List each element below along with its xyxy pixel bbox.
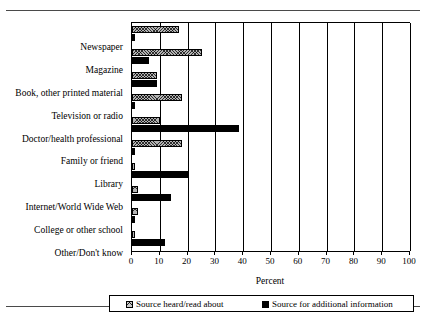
- bar-heard-read-about: [132, 186, 138, 193]
- category-label: Magazine: [86, 63, 123, 77]
- category-label: Other/Don't know: [55, 246, 123, 260]
- legend-item-heard-read-about: Source heard/read about: [126, 298, 223, 310]
- plot-area: [131, 22, 410, 252]
- bar-additional-information: [132, 148, 135, 155]
- category-label: Internet/World Wide Web: [26, 200, 123, 214]
- bar-group: [132, 205, 410, 228]
- x-axis-tick-label: 70: [314, 256, 338, 267]
- top-divider-rule: [6, 10, 420, 11]
- bar-additional-information: [132, 80, 157, 87]
- bar-heard-read-about: [132, 140, 182, 147]
- category-label: Family or friend: [61, 154, 123, 168]
- bar-additional-information: [132, 102, 135, 109]
- bar-heard-read-about: [132, 72, 157, 79]
- bar-group: [132, 91, 410, 114]
- legend-swatch-hatched-icon: [126, 301, 133, 308]
- category-label: Television or radio: [51, 109, 123, 123]
- bar-additional-information: [132, 239, 165, 246]
- bar-heard-read-about: [132, 49, 202, 56]
- x-axis-tick: [270, 251, 271, 255]
- bar-group: [132, 114, 410, 137]
- x-axis-tick-label: 50: [258, 256, 282, 267]
- gridline: [410, 23, 411, 251]
- bar-group: [132, 46, 410, 69]
- bar-chart-figure: NewspaperMagazineBook, other printed mat…: [0, 14, 426, 302]
- bar-group: [132, 23, 410, 46]
- bar-heard-read-about: [132, 208, 138, 215]
- bar-heard-read-about: [132, 231, 135, 238]
- bar-additional-information: [132, 57, 149, 64]
- x-axis-tick: [409, 251, 410, 255]
- bar-group: [132, 69, 410, 92]
- bar-group: [132, 137, 410, 160]
- x-axis-tick-label: 60: [286, 256, 310, 267]
- x-axis-tick: [131, 251, 132, 255]
- chart-legend: Source heard/read about Source for addit…: [109, 295, 414, 312]
- bar-group: [132, 228, 410, 251]
- x-axis-tick: [242, 251, 243, 255]
- x-axis-tick-label: 10: [147, 256, 171, 267]
- x-axis-tick-label: 80: [341, 256, 365, 267]
- category-label: College or other school: [34, 223, 123, 237]
- bar-group: [132, 160, 410, 183]
- bar-heard-read-about: [132, 117, 160, 124]
- legend-label-additional-information: Source for additional information: [272, 299, 393, 309]
- bar-additional-information: [132, 216, 135, 223]
- x-axis-tick: [187, 251, 188, 255]
- x-axis-tick-label: 40: [230, 256, 254, 267]
- bar-group: [132, 183, 410, 206]
- bar-heard-read-about: [132, 26, 179, 33]
- x-axis-tick-label: 30: [202, 256, 226, 267]
- category-axis-labels: NewspaperMagazineBook, other printed mat…: [0, 36, 127, 250]
- bar-additional-information: [132, 171, 188, 178]
- x-axis-tick-label: 20: [175, 256, 199, 267]
- legend-swatch-solid-icon: [262, 301, 269, 308]
- x-axis-tick: [353, 251, 354, 255]
- legend-item-additional-information: Source for additional information: [262, 298, 393, 310]
- bar-additional-information: [132, 125, 239, 132]
- bar-heard-read-about: [132, 163, 135, 170]
- category-label: Newspaper: [80, 40, 123, 54]
- x-axis-tick: [159, 251, 160, 255]
- bar-additional-information: [132, 34, 135, 41]
- x-axis-tick-label: 0: [119, 256, 143, 267]
- x-axis-title: Percent: [131, 276, 409, 286]
- legend-label-heard-read-about: Source heard/read about: [136, 299, 223, 309]
- x-axis-tick: [326, 251, 327, 255]
- x-axis-tick-label: 90: [369, 256, 393, 267]
- x-axis-tick: [214, 251, 215, 255]
- bar-heard-read-about: [132, 94, 182, 101]
- x-axis-tick-label: 100: [397, 256, 421, 267]
- x-axis-tick: [298, 251, 299, 255]
- category-label: Library: [95, 177, 124, 191]
- category-label: Book, other printed material: [15, 86, 123, 100]
- bar-additional-information: [132, 194, 171, 201]
- category-label: Doctor/health professional: [22, 132, 123, 146]
- x-axis-tick: [381, 251, 382, 255]
